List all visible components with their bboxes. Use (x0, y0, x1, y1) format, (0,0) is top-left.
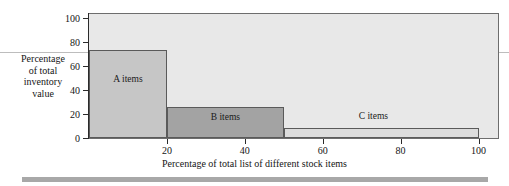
y-axis-title-line: Percentage (6, 53, 80, 65)
y-tick-mark (83, 42, 88, 43)
x-tick-label: 60 (318, 145, 328, 156)
y-axis-title-line: inventory (6, 76, 80, 88)
bar-a-items (89, 50, 167, 138)
y-tick-mark (83, 90, 88, 91)
x-axis-title: Percentage of total list of different st… (0, 158, 509, 169)
bar-label-b-items: B items (211, 112, 240, 122)
y-tick-label: 80 (54, 36, 80, 47)
x-tick-mark (323, 139, 324, 144)
x-tick-mark (245, 139, 246, 144)
x-tick-label: 40 (240, 145, 250, 156)
x-tick-label: 100 (471, 145, 486, 156)
y-tick-mark (83, 66, 88, 67)
bar-c-items (284, 128, 479, 138)
y-tick-label: 20 (54, 108, 80, 119)
y-axis-title-line: value (6, 88, 80, 100)
bar-label-a-items: A items (113, 74, 142, 84)
y-tick-mark (83, 18, 88, 19)
bar-label-c-items: C items (359, 111, 388, 121)
abc-inventory-chart: A itemsB itemsC items 020406080100 20406… (0, 0, 509, 186)
bars-layer: A itemsB itemsC items (89, 14, 498, 138)
x-tick-label: 20 (162, 145, 172, 156)
y-axis-title: Percentageof totalinventoryvalue (6, 53, 80, 99)
y-axis-title-line: of total (6, 65, 80, 77)
y-tick-label: 100 (54, 12, 80, 23)
x-tick-label: 80 (396, 145, 406, 156)
y-tick-mark (83, 138, 88, 139)
bottom-decorative-band (22, 177, 488, 182)
y-axis-line (88, 13, 89, 139)
y-tick-label: 0 (54, 133, 80, 144)
y-tick-mark (83, 114, 88, 115)
x-tick-mark (167, 139, 168, 144)
x-tick-mark (479, 139, 480, 144)
x-tick-mark (401, 139, 402, 144)
